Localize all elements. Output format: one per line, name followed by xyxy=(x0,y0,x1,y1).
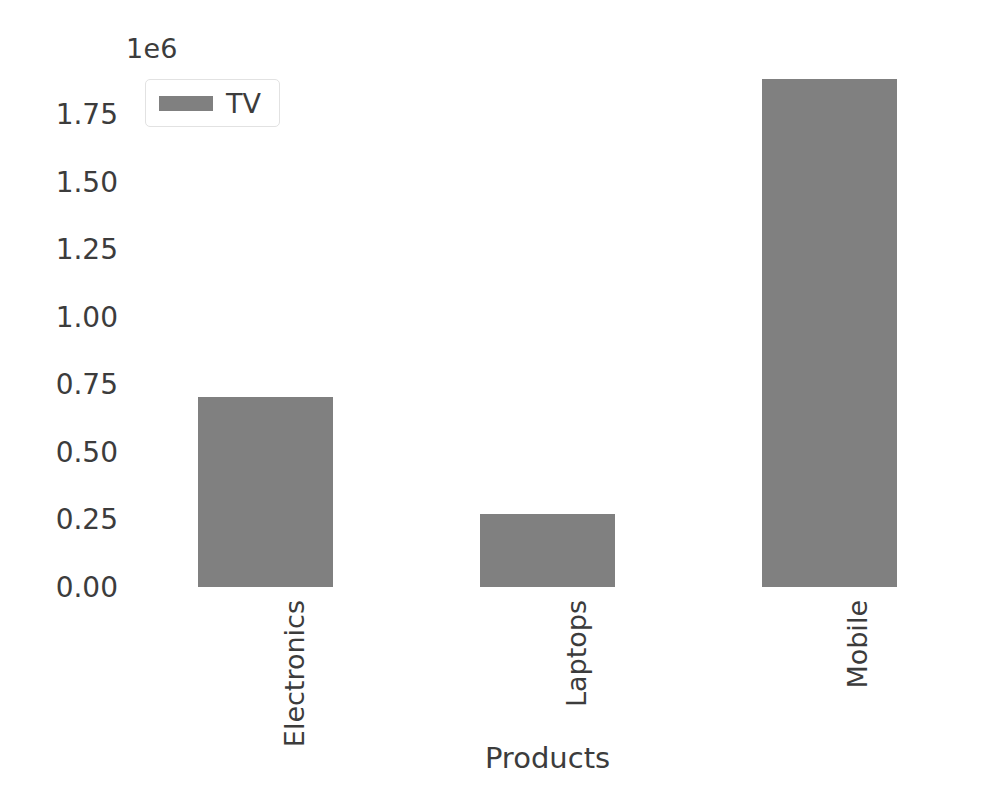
legend-label-tv: TV xyxy=(226,90,261,117)
legend-swatch-tv xyxy=(159,96,213,111)
legend[interactable]: TV xyxy=(145,79,280,127)
x-tick-label-text: Laptops xyxy=(561,600,592,707)
x-axis-label-text: Products xyxy=(485,741,610,775)
x-tick-label-laptops: Laptops xyxy=(561,600,592,707)
bar-chart-figure: 1e6 0.000.250.500.751.001.251.501.75 Ele… xyxy=(0,0,1006,802)
legend-entry-tv[interactable]: TV xyxy=(146,80,279,126)
x-tick-label-electronics: Electronics xyxy=(279,600,310,747)
x-axis-label: Products xyxy=(0,741,1006,775)
x-tick-label-mobile: Mobile xyxy=(842,600,873,689)
x-tick-label-text: Mobile xyxy=(842,600,873,689)
x-tick-label-text: Electronics xyxy=(279,600,310,747)
